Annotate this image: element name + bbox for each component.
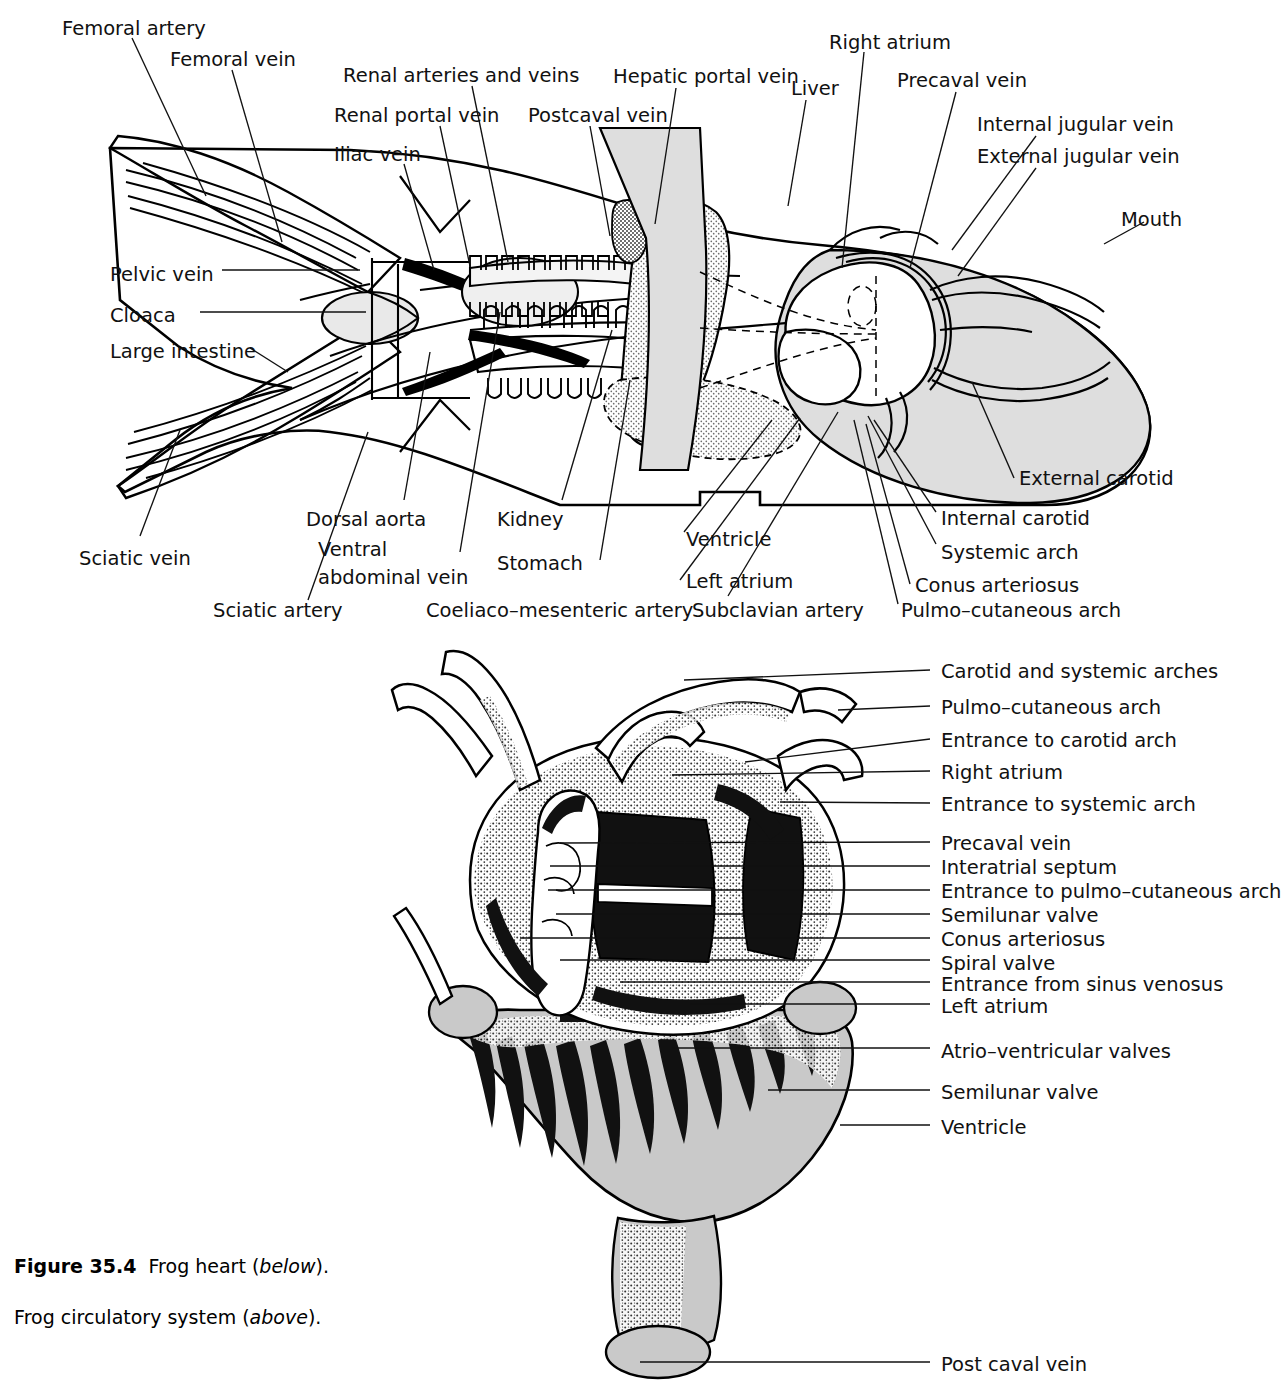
upper-label-femoral-vein: Femoral vein (170, 49, 296, 71)
figure-caption: Figure 35.4 Frog heart (below). Frog cir… (2, 1228, 392, 1331)
upper-label-dorsal-aorta: Dorsal aorta (306, 509, 426, 531)
upper-label-kidney: Kidney (497, 509, 563, 531)
caption-line2-a: Frog circulatory system ( (14, 1306, 250, 1328)
upper-label-large-intestine: Large intestine (110, 341, 256, 363)
upper-label-external-jugular-vein: External jugular vein (977, 146, 1180, 168)
upper-label-subclavian-artery: Subclavian artery (692, 600, 864, 622)
upper-label-external-carotid: External carotid (1019, 468, 1174, 490)
lower-label-carotid-and-systemic-arches: Carotid and systemic arches (941, 661, 1218, 683)
lower-label-semilunar-valve-upper: Semilunar valve (941, 905, 1099, 927)
lower-label-conus-arteriosus: Conus arteriosus (941, 929, 1105, 951)
lower-label-entrance-to-systemic-arch: Entrance to systemic arch (941, 794, 1196, 816)
leader-lines-lower (520, 670, 930, 1362)
upper-label-coeliaco-mesenteric-artery: Coeliaco–mesenteric artery (426, 600, 693, 622)
lower-label-ventricle: Ventricle (941, 1117, 1026, 1139)
upper-label-left-atrium: Left atrium (686, 571, 793, 593)
vascular-network (300, 258, 880, 420)
caption-line1-a: Frog heart ( (149, 1255, 260, 1277)
lower-label-right-atrium: Right atrium (941, 762, 1063, 784)
upper-label-internal-jugular-vein: Internal jugular vein (977, 114, 1174, 136)
frog-heart-artwork (392, 651, 862, 1378)
heart-upper-figure (700, 227, 1110, 458)
upper-label-pelvic-vein: Pelvic vein (110, 264, 214, 286)
frog-body-outline (110, 136, 1150, 505)
lower-label-pulmo-cutaneous-arch: Pulmo–cutaneous arch (941, 697, 1161, 719)
upper-label-iliac-vein: Iliac vein (334, 144, 421, 166)
upper-label-cloaca: Cloaca (110, 305, 176, 327)
lower-label-left-atrium: Left atrium (941, 996, 1048, 1018)
upper-label-ventricle: Ventricle (686, 529, 771, 551)
upper-label-postcaval-vein: Postcaval vein (528, 105, 668, 127)
spleen-organ (604, 377, 801, 459)
upper-label-internal-carotid: Internal carotid (941, 508, 1090, 530)
upper-label-femoral-artery: Femoral artery (62, 18, 206, 40)
upper-label-systemic-arch: Systemic arch (941, 542, 1079, 564)
upper-label-liver: Liver (791, 78, 839, 100)
dark-vessel-wedges (402, 258, 590, 396)
upper-label-sciatic-artery: Sciatic artery (213, 600, 343, 622)
kidney-organ (600, 128, 706, 470)
upper-label-pulmo-cutaneous-arch: Pulmo–cutaneous arch (901, 600, 1121, 622)
upper-label-right-atrium: Right atrium (829, 32, 951, 54)
liver-organ (612, 200, 729, 446)
upper-label-sciatic-vein: Sciatic vein (79, 548, 191, 570)
lower-label-semilunar-valve-lower: Semilunar valve (941, 1082, 1099, 1104)
caption-line1-italic: below (259, 1255, 315, 1277)
upper-label-hepatic-portal-vein: Hepatic portal vein (613, 66, 799, 88)
hindlimb-vessels-lower (126, 346, 372, 478)
caption-line2-italic: above (250, 1306, 308, 1328)
lower-label-spiral-valve: Spiral valve (941, 953, 1055, 975)
lower-label-atrio-ventricular-valves: Atrio–ventricular valves (941, 1041, 1171, 1063)
lower-label-precaval-vein: Precaval vein (941, 833, 1071, 855)
caption-line2-b: ). (308, 1306, 321, 1328)
pelvic-region (322, 292, 418, 344)
upper-label-mouth: Mouth (1121, 209, 1182, 231)
upper-label-renal-arteries-and-veins: Renal arteries and veins (343, 65, 579, 87)
lower-label-interatrial-septum: Interatrial septum (941, 857, 1117, 879)
caption-line1-b: ). (316, 1255, 329, 1277)
lower-label-entrance-to-carotid-arch: Entrance to carotid arch (941, 730, 1177, 752)
upper-label-stomach: Stomach (497, 553, 583, 575)
upper-label-ventral-abdominal-vein-2: abdominal vein (318, 567, 468, 589)
upper-label-precaval-vein: Precaval vein (897, 70, 1027, 92)
figure-artwork (0, 0, 1282, 1382)
lower-label-entrance-from-sinus-venosus: Entrance from sinus venosus (941, 974, 1223, 996)
lower-label-post-caval-vein: Post caval vein (941, 1354, 1087, 1376)
upper-label-ventral-abdominal-vein-1: Ventral (318, 539, 387, 561)
figure-number: Figure 35.4 (14, 1255, 136, 1277)
upper-label-renal-portal-vein: Renal portal vein (334, 105, 499, 127)
upper-label-conus-arteriosus: Conus arteriosus (915, 575, 1079, 597)
lower-label-entrance-to-pulmo-cutaneous-arch: Entrance to pulmo–cutaneous arch (941, 881, 1281, 903)
digestive-organs (462, 256, 668, 398)
